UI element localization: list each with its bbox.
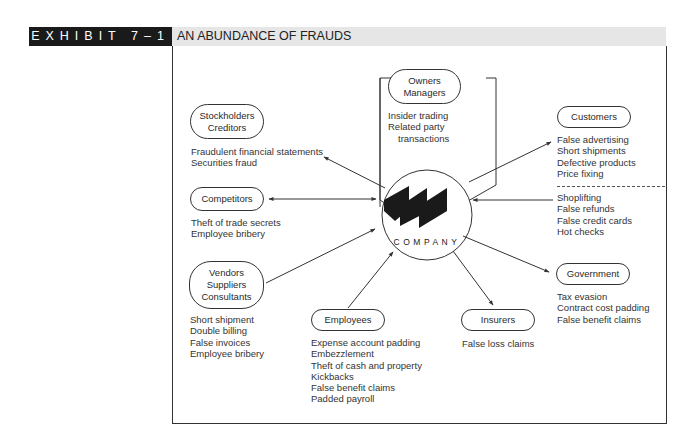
node-label: Government xyxy=(567,268,619,280)
insurers-fraud-list: False loss claims xyxy=(462,338,534,349)
fraud-item: Insider trading xyxy=(388,110,449,121)
fraud-item: Short shipments xyxy=(557,145,636,156)
fraud-item: transactions xyxy=(388,133,449,144)
dashed-divider xyxy=(557,186,665,187)
fraud-item: Contract cost padding xyxy=(557,302,649,313)
fraud-item: Theft of trade secrets xyxy=(191,217,281,228)
owners-fraud-list: Insider trading Related party transactio… xyxy=(388,110,449,144)
vendors-fraud-list: Short shipment Double billing False invo… xyxy=(190,314,264,359)
arrow-employees-to-company xyxy=(348,252,393,308)
node-label: Consultants xyxy=(201,291,251,303)
node-label: Suppliers xyxy=(207,279,247,291)
node-label: Owners xyxy=(408,75,441,87)
company-label: COMPANY xyxy=(381,237,473,247)
fraud-item: Double billing xyxy=(190,325,264,336)
node-owners-managers: Owners Managers xyxy=(388,69,461,104)
government-fraud-list: Tax evasion Contract cost padding False … xyxy=(557,291,649,325)
fraud-item: Expense account padding xyxy=(311,337,422,348)
arrow-to-stockholders xyxy=(324,157,385,188)
node-vendors-suppliers-consultants: Vendors Suppliers Consultants xyxy=(189,261,264,309)
fraud-item: Securities fraud xyxy=(191,157,323,168)
fraud-item: Employee bribery xyxy=(190,348,264,359)
fraud-item: Theft of cash and property xyxy=(311,360,422,371)
fraud-item: Short shipment xyxy=(190,314,264,325)
customers-perpetrator-fraud-list: Shoplifting False refunds False credit c… xyxy=(557,192,632,237)
node-stockholders-creditors: Stockholders Creditors xyxy=(190,104,264,139)
arrow-to-insurers xyxy=(453,251,493,305)
customers-victim-fraud-list: False advertising Short shipments Defect… xyxy=(557,134,636,179)
fraud-item: False refunds xyxy=(557,203,632,214)
node-label: Vendors xyxy=(209,267,244,279)
fraud-item: False invoices xyxy=(190,337,264,348)
fraud-item: Hot checks xyxy=(557,226,632,237)
fraud-item: Padded payroll xyxy=(311,393,422,404)
node-label: Employees xyxy=(325,314,372,326)
fraud-item: Defective products xyxy=(557,157,636,168)
node-label: Managers xyxy=(403,87,445,99)
node-label: Customers xyxy=(571,111,617,123)
node-label: Competitors xyxy=(201,193,252,205)
fraud-item: Embezzlement xyxy=(311,348,422,359)
competitors-fraud-list: Theft of trade secrets Employee bribery xyxy=(191,217,281,240)
fraud-item: Related party xyxy=(388,121,449,132)
fraud-item: False advertising xyxy=(557,134,636,145)
arrow-to-government xyxy=(463,236,549,272)
fraud-item: Price fixing xyxy=(557,168,636,179)
fraud-item: Employee bribery xyxy=(191,228,281,239)
node-customers: Customers xyxy=(557,106,631,128)
fraud-item: Fraudulent financial statements xyxy=(191,146,323,157)
arrow-to-customers xyxy=(469,142,551,182)
node-label: Stockholders xyxy=(200,110,255,122)
fraud-item: False credit cards xyxy=(557,215,632,226)
node-competitors: Competitors xyxy=(190,187,264,211)
node-employees: Employees xyxy=(311,309,385,331)
fraud-item: Shoplifting xyxy=(557,192,632,203)
fraud-item: False benefit claims xyxy=(557,314,649,325)
stockholders-fraud-list: Fraudulent financial statements Securiti… xyxy=(191,146,323,169)
fraud-item: Tax evasion xyxy=(557,291,649,302)
node-government: Government xyxy=(556,263,630,285)
arrow-vendors-to-company xyxy=(266,229,375,283)
fraud-item: False loss claims xyxy=(462,338,534,349)
node-insurers: Insurers xyxy=(461,309,535,331)
fraud-item: False benefit claims xyxy=(311,382,422,393)
fraud-item: Kickbacks xyxy=(311,371,422,382)
node-label: Creditors xyxy=(208,122,247,134)
node-label: Insurers xyxy=(481,314,515,326)
employees-fraud-list: Expense account padding Embezzlement The… xyxy=(311,337,422,405)
